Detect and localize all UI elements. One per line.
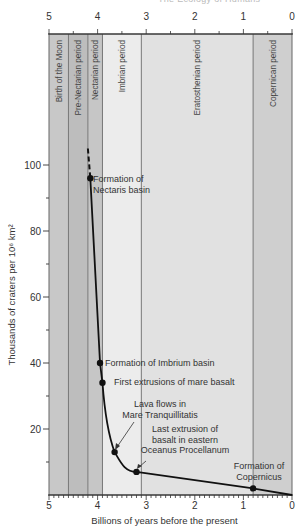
x-tick-label: 5 [46, 11, 52, 22]
x-tick-label: 2 [192, 500, 198, 511]
x-tick-label: 1 [241, 500, 247, 511]
y-tick-label: 40 [30, 358, 42, 369]
annotation-label: Formation of [234, 461, 285, 471]
period-label: Imbrian period [118, 40, 127, 93]
x-tick-label: 3 [143, 11, 149, 22]
period-label: Nectarian period [91, 40, 100, 101]
x-tick-label: 0 [289, 11, 295, 22]
annotation-label: Last extrusion of [152, 424, 219, 434]
crater-density-chart: Birth of the MoonPre-Nectarian periodNec… [0, 0, 303, 528]
data-point [133, 469, 139, 475]
data-point [97, 360, 103, 366]
annotation-label: Formation of [93, 174, 144, 184]
data-point [250, 485, 256, 491]
period-label: Birth of the Moon [55, 40, 64, 103]
data-point [111, 449, 117, 455]
x-tick-label: 2 [192, 11, 198, 22]
annotation-label: Oceanus Procellanum [141, 445, 230, 455]
annotation-label: Mare Tranquillitatis [122, 410, 198, 420]
x-tick-label: 5 [46, 500, 52, 511]
x-tick-label: 4 [95, 11, 101, 22]
period-label: Pre-Nectarian period [74, 40, 83, 116]
annotation-label: Formation of Imbrium basin [105, 358, 215, 368]
annotation-label: Copernicus [236, 472, 282, 482]
x-axis-label: Billions of years before the present [91, 515, 238, 526]
x-tick-label: 3 [143, 500, 149, 511]
period-label: Eratosthenian period [193, 40, 202, 116]
annotation-label: basalt in eastern [152, 435, 218, 445]
x-tick-label: 1 [241, 11, 247, 22]
x-tick-label: 4 [95, 500, 101, 511]
data-point [99, 380, 105, 386]
y-tick-label: 60 [30, 292, 42, 303]
period-label: Copernican period [269, 40, 278, 107]
annotation-label: Lava flows in [134, 399, 186, 409]
y-tick-label: 80 [30, 226, 42, 237]
x-tick-label: 0 [289, 500, 295, 511]
y-tick-label: 100 [24, 160, 41, 171]
annotation-label: First extrusions of mare basalt [114, 377, 235, 387]
annotation-label: Nectaris basin [93, 185, 150, 195]
y-axis-label: Thousands of craters per 10⁶ km² [6, 224, 17, 365]
y-tick-label: 20 [30, 424, 42, 435]
